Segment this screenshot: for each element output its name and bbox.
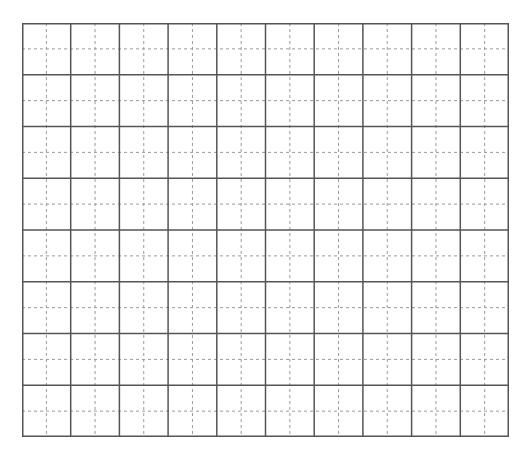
writing-grid — [22, 23, 509, 437]
grid-canvas — [22, 23, 509, 437]
